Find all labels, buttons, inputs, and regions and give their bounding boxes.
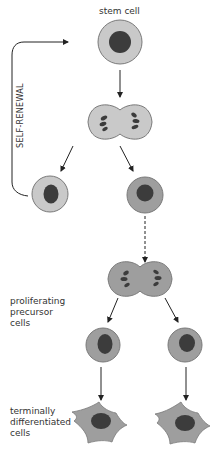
proliferating-label-line1: proliferating xyxy=(10,296,65,307)
terminal-label-line2: differentiated xyxy=(10,417,71,428)
arrow-to-self-renewed-cell xyxy=(61,146,73,171)
proliferating-precursor-label: proliferating precursor cells xyxy=(10,296,65,329)
self-renewal-label: SELF-RENEWAL xyxy=(16,83,25,148)
proliferating-label-line2: precursor xyxy=(10,307,65,318)
stem-cell-label: stem cell xyxy=(99,6,140,17)
differentiated-cell-left xyxy=(72,402,127,443)
precursor-cell xyxy=(127,177,163,213)
arrow-to-right-precursor xyxy=(165,298,178,322)
terminal-label-line3: cells xyxy=(10,428,71,439)
arrow-to-left-precursor xyxy=(108,298,118,322)
stem-cell-diagram xyxy=(0,0,224,456)
terminal-label-line1: terminally xyxy=(10,406,71,417)
dividing-precursor-cell xyxy=(108,262,172,297)
differentiated-cell-right xyxy=(155,402,210,444)
precursor-daughter-right xyxy=(168,328,202,362)
stem-cell xyxy=(98,20,142,64)
precursor-daughter-left xyxy=(86,328,120,362)
dividing-stem-cell xyxy=(88,105,152,139)
proliferating-label-line3: cells xyxy=(10,318,65,329)
self-renewed-stem-cell xyxy=(32,176,68,212)
arrow-to-precursor-cell xyxy=(120,146,133,171)
terminally-differentiated-label: terminally differentiated cells xyxy=(10,406,71,439)
